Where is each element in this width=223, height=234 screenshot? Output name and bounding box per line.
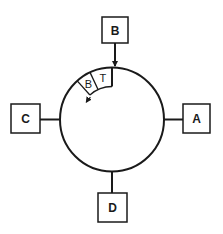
node-b: B [102, 17, 128, 43]
frame-cell-t: T [99, 72, 106, 84]
node-label: B [111, 24, 120, 38]
node-label: A [192, 112, 201, 126]
frame-token: TB [77, 68, 112, 103]
node-d: D [98, 193, 127, 222]
token-ring-diagram: TB ABCD [0, 0, 223, 234]
node-label: D [108, 201, 117, 215]
diagram-canvas: TB ABCD [0, 0, 223, 234]
direction-arrow-icon [86, 97, 90, 102]
node-label: C [21, 112, 30, 126]
node-a: A [183, 104, 210, 133]
frame-cell-b: B [85, 78, 92, 90]
frame-inner-arc [90, 87, 112, 95]
node-c: C [11, 104, 40, 133]
